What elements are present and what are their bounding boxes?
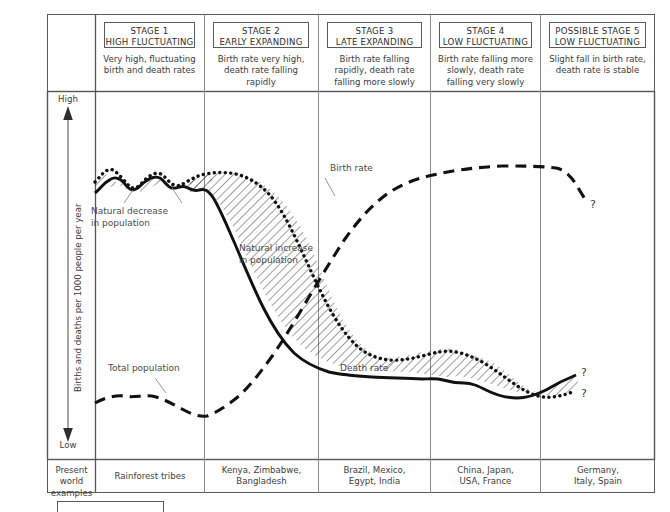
annotation-birth-rate: Birth rate (330, 163, 410, 175)
footer-example-5: Germany, Italy, Spain (542, 465, 654, 488)
question-mark-birth-rate: ? (581, 387, 587, 400)
footer-row-label: Present world examples (49, 465, 94, 499)
annotation-natural-increase: Natural increase in population (239, 243, 369, 266)
footer-example-4: China, Japan, USA, France (432, 465, 539, 488)
annotation-natural-decrease: Natural decrease in population (91, 206, 231, 229)
annotation-death-rate: Death rate (340, 363, 420, 375)
footer-example-1: Rainforest tribes (97, 471, 203, 482)
footer-example-2: Kenya, Zimbabwe, Bangladesh (206, 465, 317, 488)
demographic-transition-diagram: STAGE 1 HIGH FLUCTUATING Very high, fluc… (0, 0, 670, 512)
question-mark-death-rate: ? (581, 366, 587, 379)
footer-example-3: Brazil, Mexico, Egypt, India (320, 465, 429, 488)
question-mark-total-population: ? (590, 198, 596, 211)
annotation-total-population: Total population (108, 363, 218, 375)
